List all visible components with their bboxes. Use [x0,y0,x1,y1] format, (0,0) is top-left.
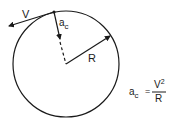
formula: ac = V2 R [129,78,166,104]
velocity-label: V [22,8,30,20]
formula-numerator: V2 [154,78,165,90]
formula-denominator: R [155,93,162,104]
formula-equals: = [145,86,150,96]
radius-label: R [88,52,96,64]
acceleration-dashed-line [60,42,66,64]
formula-lhs: ac [129,86,139,100]
circular-motion-diagram: V ac R ac = V2 R [0,0,175,125]
acceleration-label: ac [59,17,69,31]
